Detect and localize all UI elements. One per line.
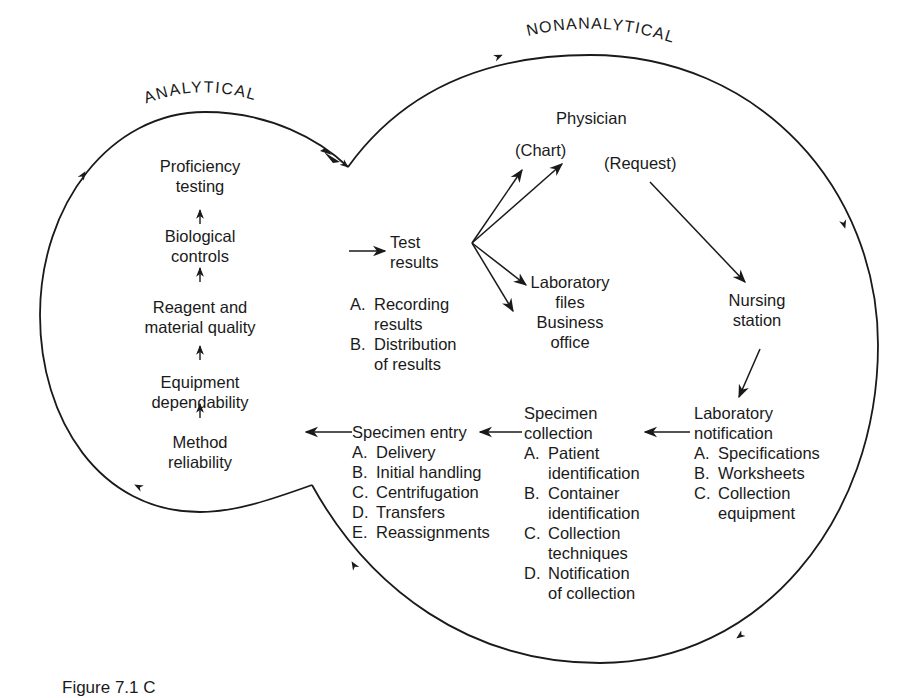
list-item: C. Collectiontechniques: [524, 523, 640, 563]
list-key: C.: [524, 523, 548, 563]
title-line: Specimen: [524, 403, 640, 423]
line: Reagent and: [130, 297, 270, 317]
list-key: D.: [352, 502, 376, 522]
list-key: D.: [524, 563, 548, 603]
list-item: C. Centrifugation: [352, 482, 490, 502]
line: Recording: [374, 294, 449, 314]
line: Collection: [718, 483, 795, 503]
node-lab-files-business-office: Laboratory files Business office: [525, 272, 615, 352]
line: Patient: [548, 443, 640, 463]
list-key: C.: [352, 482, 376, 502]
title-line: Specimen entry: [352, 422, 490, 442]
list-value: Notificationof collection: [548, 563, 635, 603]
line: Distribution: [374, 334, 457, 354]
list-value: Worksheets: [718, 463, 805, 483]
line: of collection: [548, 583, 635, 603]
list-value: Distributionof results: [374, 334, 457, 374]
list-item: A. Delivery: [352, 442, 490, 462]
analytical-item-biological-controls: Biological controls: [150, 226, 250, 266]
list-item: A. Recordingresults: [350, 294, 457, 334]
title-line: collection: [524, 423, 640, 443]
line: Notification: [548, 563, 635, 583]
node-nursing-station: Nursing station: [712, 290, 802, 330]
node-specimen-collection: Specimen collection A. Patientidentifica…: [524, 403, 640, 603]
node-test-results: Test results: [390, 232, 439, 272]
title-line: Laboratory: [694, 403, 820, 423]
line: Laboratory: [525, 272, 615, 292]
line: station: [712, 310, 802, 330]
list-key: B.: [524, 483, 548, 523]
node-specimen-entry: Specimen entry A. Delivery B. Initial ha…: [352, 422, 490, 542]
analytical-item-method-reliability: Method reliability: [150, 432, 250, 472]
line: office: [525, 332, 615, 352]
line: identification: [548, 503, 640, 523]
list-item: A. Patientidentification: [524, 443, 640, 483]
line: files: [525, 292, 615, 312]
list-key: A.: [352, 442, 376, 462]
list-value: Recordingresults: [374, 294, 449, 334]
list-item: E. Reassignments: [352, 522, 490, 542]
title-line: notification: [694, 423, 820, 443]
list-item: A. Specifications: [694, 443, 820, 463]
line: Specifications: [718, 443, 820, 463]
analytical-item-equipment-dependability: Equipment dependability: [140, 372, 260, 412]
list-item: B. Worksheets: [694, 463, 820, 483]
line: testing: [150, 176, 250, 196]
line: Nursing: [712, 290, 802, 310]
line: dependability: [140, 392, 260, 412]
line: techniques: [548, 543, 628, 563]
analytical-item-reagent-quality: Reagent and material quality: [130, 297, 270, 337]
region-label-analytical: ANALYTICAL: [141, 78, 259, 106]
list-key: A.: [694, 443, 718, 463]
list-item: C. Collectionequipment: [694, 483, 820, 523]
node-chart: (Chart): [515, 140, 566, 160]
title-line: results: [390, 252, 439, 272]
list-key: A.: [524, 443, 548, 483]
list-value: Specifications: [718, 443, 820, 463]
region-label-nonanalytical: NONANALYTICAL: [525, 15, 678, 46]
list-value: Collectiontechniques: [548, 523, 628, 563]
arrow-icon: [320, 148, 340, 163]
list-item: D. Transfers: [352, 502, 490, 522]
list-value: Collectionequipment: [718, 483, 795, 523]
figure-caption: Figure 7.1 C: [62, 678, 156, 698]
list-item: B. Initial handling: [352, 462, 490, 482]
line: Method: [150, 432, 250, 452]
line: Container: [548, 483, 640, 503]
list-key: B.: [350, 334, 374, 374]
line: Worksheets: [718, 463, 805, 483]
list-key: B.: [694, 463, 718, 483]
line: Collection: [548, 523, 628, 543]
list-value: Delivery: [376, 442, 436, 462]
line: results: [374, 314, 449, 334]
list-value: Reassignments: [376, 522, 490, 542]
line: Proficiency: [150, 156, 250, 176]
list-key: E.: [352, 522, 376, 542]
line: Biological: [150, 226, 250, 246]
list-value: Containeridentification: [548, 483, 640, 523]
list-value: Transfers: [376, 502, 445, 522]
node-request: (Request): [604, 153, 676, 173]
line: reliability: [150, 452, 250, 472]
list-value: Centrifugation: [376, 482, 479, 502]
line: identification: [548, 463, 640, 483]
title-line: Test: [390, 232, 439, 252]
list-key: C.: [694, 483, 718, 523]
analytical-item-proficiency-testing: Proficiency testing: [150, 156, 250, 196]
list-value: Initial handling: [376, 462, 482, 482]
list-item: D. Notificationof collection: [524, 563, 640, 603]
line: of results: [374, 354, 457, 374]
list-value: Patientidentification: [548, 443, 640, 483]
list-item: B. Distributionof results: [350, 334, 457, 374]
line: material quality: [130, 317, 270, 337]
list-key: B.: [352, 462, 376, 482]
line: controls: [150, 246, 250, 266]
line: equipment: [718, 503, 795, 523]
line: Equipment: [140, 372, 260, 392]
node-lab-notification: Laboratory notification A. Specification…: [694, 403, 820, 523]
list-key: A.: [350, 294, 374, 334]
list-item: B. Containeridentification: [524, 483, 640, 523]
node-physician: Physician: [556, 108, 627, 128]
test-results-list: A. Recordingresults B. Distributionof re…: [350, 294, 457, 374]
line: Business: [525, 312, 615, 332]
